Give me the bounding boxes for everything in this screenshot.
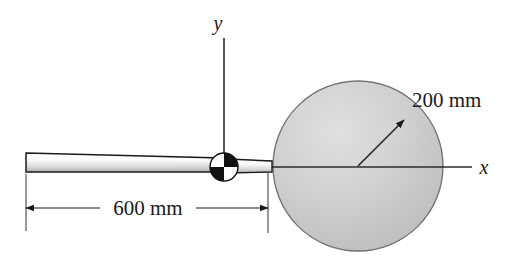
bar-length-label: 600 mm [113,196,182,220]
y-axis-label: y [212,12,223,35]
x-axis-label: x [479,156,489,178]
pin-support [210,153,238,181]
engineering-diagram: y x 200 mm [0,0,515,258]
figure-root: y x 200 mm [0,0,515,258]
disk-radius-label: 200 mm [412,88,481,112]
